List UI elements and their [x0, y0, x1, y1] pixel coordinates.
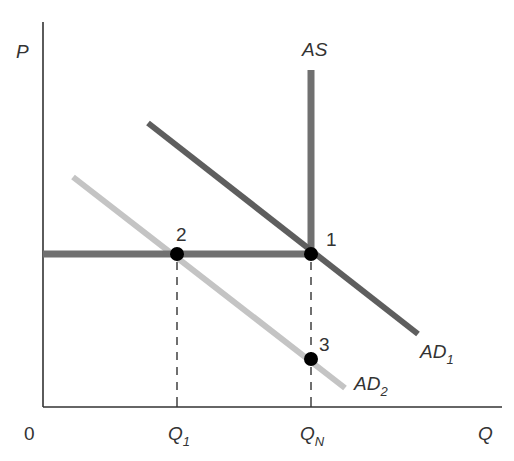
ad1-curve — [148, 123, 418, 334]
as-label: AS — [301, 39, 328, 60]
tick-label-qn: QN — [300, 423, 325, 449]
ad1-label: AD1 — [419, 341, 454, 367]
point-3-label: 3 — [319, 334, 330, 355]
ad2-label: AD2 — [353, 373, 388, 399]
origin-label: 0 — [24, 423, 35, 444]
point-3 — [304, 352, 318, 366]
ad-as-diagram: 1 2 3 P 0 Q Q1 QN AS AD1 AD2 — [0, 0, 514, 461]
point-1 — [304, 247, 318, 261]
y-axis-label: P — [16, 41, 29, 62]
point-1-label: 1 — [326, 229, 337, 250]
point-2 — [170, 247, 184, 261]
ad2-curve — [73, 177, 345, 388]
x-axis-label: Q — [478, 423, 493, 444]
tick-label-q1: Q1 — [168, 423, 190, 449]
point-2-label: 2 — [176, 224, 187, 245]
